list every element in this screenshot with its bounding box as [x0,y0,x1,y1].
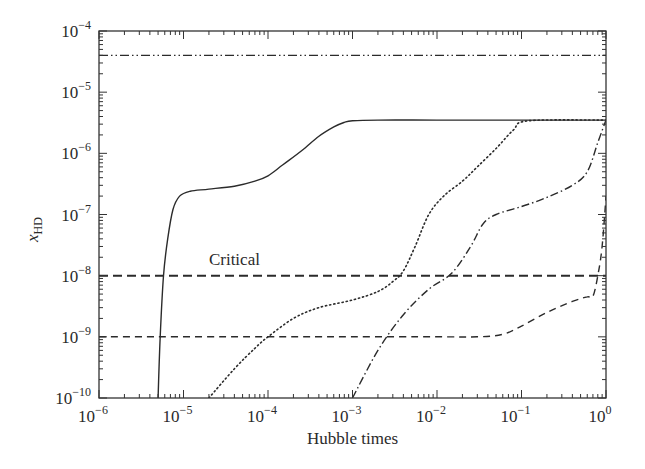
x-tick-label: 10−4 [247,403,277,426]
y-tick-label: 10−10 [55,385,91,408]
y-tick-exp: −10 [72,385,91,399]
x-tick-label: 10−6 [78,403,108,426]
x-tick-exp: −3 [349,403,362,417]
y-tick-exp: −8 [78,263,91,277]
x-tick-label: 10−5 [163,403,193,426]
series-dotted [209,120,606,398]
x-tick-base: 10 [163,407,180,426]
y-tick-base: 10 [55,389,72,408]
y-tick-exp: −4 [78,18,91,32]
series-dashed-thin [99,196,606,337]
x-tick-base: 10 [247,407,264,426]
y-tick-base: 10 [61,267,78,286]
y-tick-label: 10−7 [61,202,91,225]
ticks-layer [99,31,606,398]
x-tick-label: 10−1 [501,403,531,426]
y-tick-base: 10 [61,144,78,163]
x-tick-base: 10 [416,407,433,426]
y-tick-base: 10 [61,22,78,41]
y-tick-base: 10 [61,206,78,225]
y-axis-title-sub: HD [31,217,45,235]
y-tick-label: 10−4 [61,18,91,41]
x-tick-label: 10−2 [416,403,446,426]
y-tick-exp: −6 [78,140,91,154]
x-tick-base: 10 [501,407,518,426]
x-tick-base: 10 [78,407,95,426]
y-tick-exp: −5 [78,79,91,93]
x-tick-exp: 0 [606,403,612,417]
y-tick-label: 10−5 [61,79,91,102]
plot-frame [99,31,606,398]
y-tick-base: 10 [61,328,78,347]
x-tick-exp: −6 [95,403,108,417]
x-tick-exp: −1 [518,403,531,417]
critical-label: Critical [209,250,260,269]
x-tick-exp: −4 [264,403,277,417]
x-tick-base: 10 [589,407,606,426]
y-axis-title: xHD [23,217,45,243]
y-tick-label: 10−8 [61,263,91,286]
y-tick-label: 10−9 [61,324,91,347]
y-tick-label: 10−6 [61,140,91,163]
x-tick-exp: −2 [433,403,446,417]
x-tick-label: 10−3 [332,403,362,426]
tick-labels: 10−610−510−410−310−210−110010−410−510−61… [55,18,611,426]
x-axis-title: Hubble times [307,429,398,448]
x-tick-label: 100 [589,403,612,426]
x-tick-exp: −5 [180,403,193,417]
y-tick-exp: −7 [78,202,91,216]
y-tick-exp: −9 [78,324,91,338]
x-tick-base: 10 [332,407,349,426]
series-dash-dot [353,120,607,398]
chart: 10−610−510−410−310−210−110010−410−510−61… [0,0,645,469]
series-layer [99,55,606,398]
y-tick-base: 10 [61,83,78,102]
